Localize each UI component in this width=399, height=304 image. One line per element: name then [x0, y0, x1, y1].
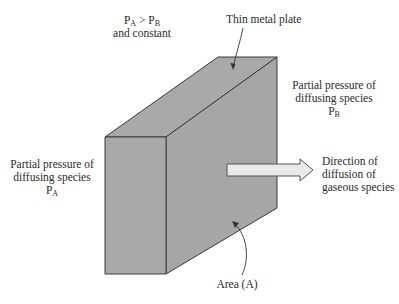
pressure-inequality: PA > PB — [112, 14, 172, 27]
direction-line3: gaseous species — [322, 181, 398, 194]
right-pressure-line1: Partial pressure of — [292, 79, 376, 92]
pa-subscript: A — [52, 189, 58, 198]
direction-line1: Direction of — [322, 155, 398, 168]
plate-label-text: Thin metal plate — [226, 13, 300, 26]
area-label: Area (A) — [212, 278, 262, 291]
area-label-text: Area (A) — [212, 278, 262, 291]
diffusion-diagram — [0, 0, 399, 304]
pb-subscript: B — [335, 110, 340, 119]
constant-text: and constant — [112, 27, 172, 40]
plate-front-face — [105, 137, 166, 274]
left-pressure-symbol: PA — [10, 184, 94, 197]
plate-label: Thin metal plate — [226, 13, 300, 26]
right-pressure-label: Partial pressure of diffusing species PB — [292, 79, 376, 118]
left-pressure-line2: diffusing species — [10, 171, 94, 184]
left-pressure-line1: Partial pressure of — [10, 158, 94, 171]
left-pressure-label: Partial pressure of diffusing species PA — [10, 158, 94, 197]
greater-than-sign: > — [136, 14, 148, 26]
pressure-condition-label: PA > PB and constant — [112, 14, 172, 40]
right-pressure-symbol: PB — [292, 105, 376, 118]
right-pressure-line2: diffusing species — [292, 92, 376, 105]
direction-line2: diffusion of — [322, 168, 398, 181]
diffusion-direction-label: Direction of diffusion of gaseous specie… — [322, 155, 398, 194]
